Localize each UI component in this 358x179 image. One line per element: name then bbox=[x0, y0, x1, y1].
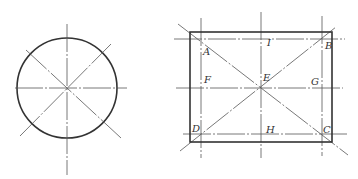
point-label-f: F bbox=[203, 74, 212, 85]
circle-centerline bbox=[20, 44, 111, 136]
rectangle-figure: AIBFEGDHC bbox=[174, 12, 348, 158]
point-label-i: I bbox=[266, 37, 272, 48]
point-label-g: G bbox=[311, 76, 319, 87]
point-label-e: E bbox=[262, 72, 271, 83]
point-label-c: C bbox=[323, 124, 331, 135]
geometry-diagram: AIBFEGDHC bbox=[0, 0, 358, 179]
point-label-d: D bbox=[191, 123, 200, 134]
point-label-a: A bbox=[202, 46, 210, 57]
circle-centerline bbox=[26, 50, 121, 138]
point-label-b: B bbox=[324, 40, 332, 51]
rectangle-centerlines bbox=[174, 12, 348, 158]
circle-figure bbox=[15, 24, 127, 175]
point-label-h: H bbox=[265, 124, 275, 135]
rect-centerline bbox=[178, 24, 348, 155]
circle-centerlines bbox=[15, 24, 127, 175]
